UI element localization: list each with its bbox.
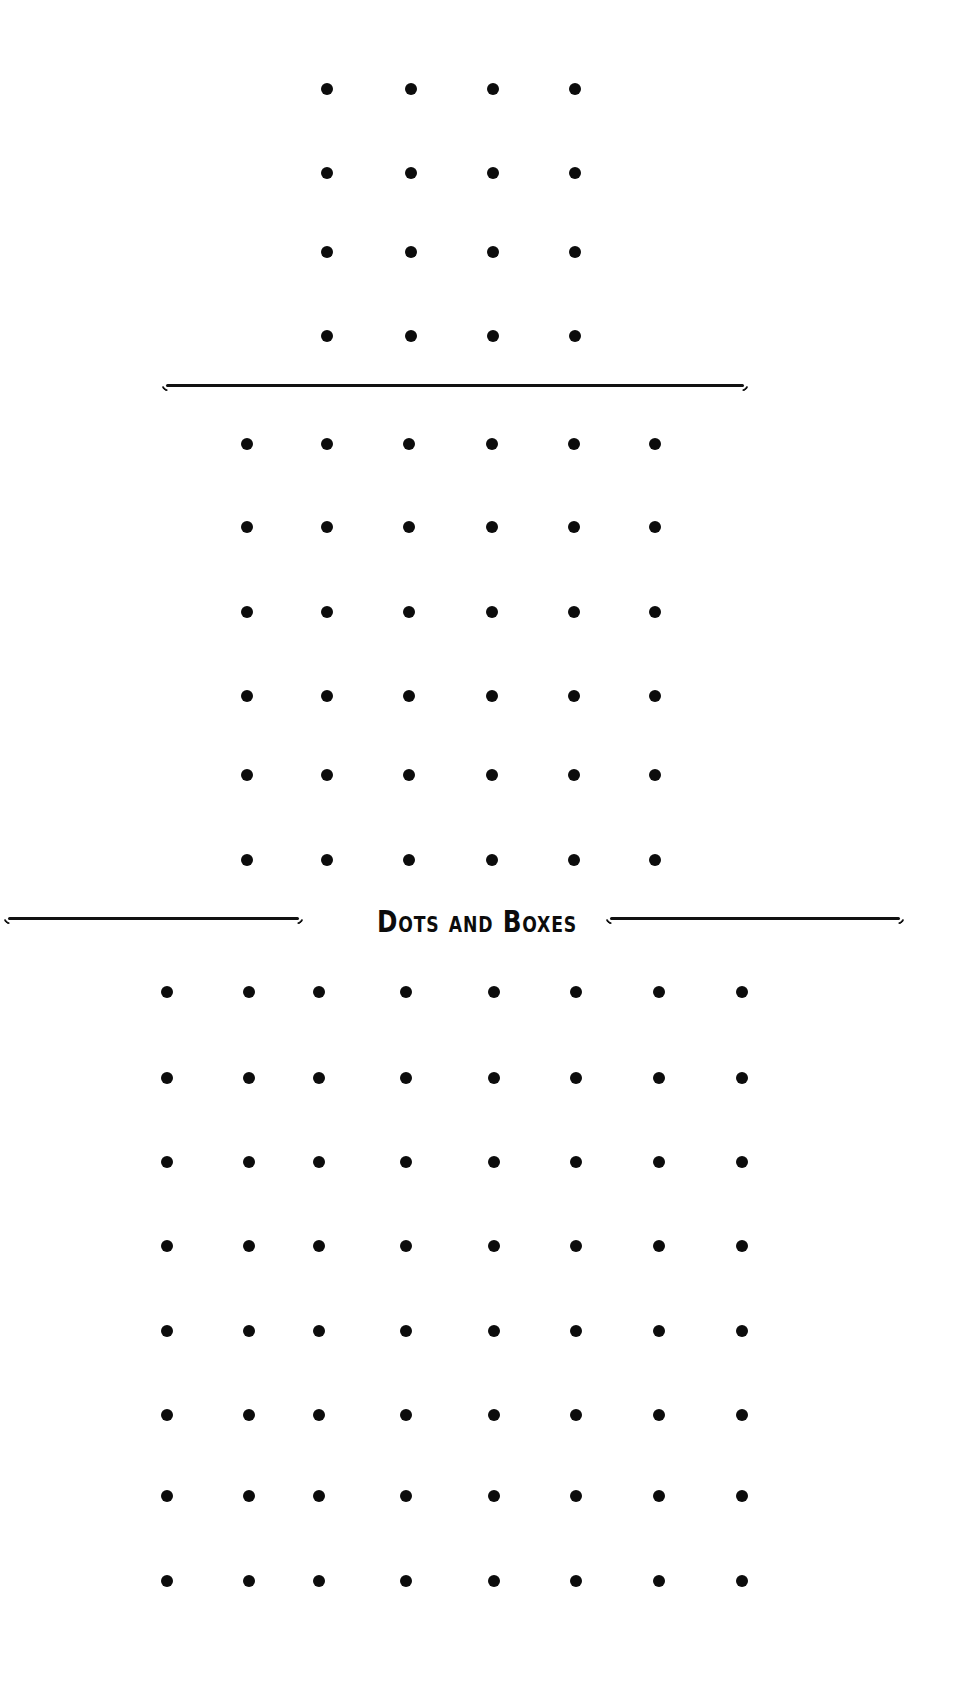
- grid-dot[interactable]: [736, 1072, 748, 1084]
- grid-dot[interactable]: [403, 606, 415, 618]
- grid-dot[interactable]: [403, 438, 415, 450]
- grid-dot[interactable]: [400, 1072, 412, 1084]
- grid-dot[interactable]: [487, 83, 499, 95]
- grid-dot[interactable]: [161, 1156, 173, 1168]
- grid-dot[interactable]: [405, 167, 417, 179]
- grid-dot[interactable]: [568, 690, 580, 702]
- grid-dot[interactable]: [243, 1072, 255, 1084]
- grid-dot[interactable]: [649, 854, 661, 866]
- grid-dot[interactable]: [736, 1240, 748, 1252]
- grid-dot[interactable]: [736, 1409, 748, 1421]
- grid-dot[interactable]: [487, 330, 499, 342]
- grid-dot[interactable]: [570, 986, 582, 998]
- grid-dot[interactable]: [486, 438, 498, 450]
- grid-dot[interactable]: [403, 690, 415, 702]
- grid-dot[interactable]: [488, 1156, 500, 1168]
- grid-dot[interactable]: [313, 1240, 325, 1252]
- grid-dot[interactable]: [736, 1575, 748, 1587]
- grid-dot[interactable]: [487, 246, 499, 258]
- grid-dot[interactable]: [653, 1072, 665, 1084]
- grid-dot[interactable]: [736, 1156, 748, 1168]
- grid-dot[interactable]: [243, 1240, 255, 1252]
- grid-dot[interactable]: [488, 1490, 500, 1502]
- grid-dot[interactable]: [570, 1575, 582, 1587]
- grid-dot[interactable]: [161, 1240, 173, 1252]
- grid-dot[interactable]: [488, 1575, 500, 1587]
- grid-dot[interactable]: [569, 246, 581, 258]
- grid-dot[interactable]: [405, 330, 417, 342]
- grid-dot[interactable]: [321, 854, 333, 866]
- grid-dot[interactable]: [488, 1409, 500, 1421]
- grid-dot[interactable]: [568, 521, 580, 533]
- grid-dot[interactable]: [569, 330, 581, 342]
- grid-dot[interactable]: [241, 521, 253, 533]
- grid-dot[interactable]: [161, 1490, 173, 1502]
- grid-dot[interactable]: [736, 1490, 748, 1502]
- grid-dot[interactable]: [569, 83, 581, 95]
- grid-dot[interactable]: [653, 1575, 665, 1587]
- grid-dot[interactable]: [403, 769, 415, 781]
- grid-dot[interactable]: [243, 1325, 255, 1337]
- grid-dot[interactable]: [313, 1325, 325, 1337]
- grid-dot[interactable]: [653, 1240, 665, 1252]
- grid-dot[interactable]: [400, 1240, 412, 1252]
- grid-dot[interactable]: [241, 438, 253, 450]
- grid-dot[interactable]: [405, 246, 417, 258]
- grid-dot[interactable]: [313, 1156, 325, 1168]
- grid-dot[interactable]: [243, 986, 255, 998]
- grid-dot[interactable]: [400, 1575, 412, 1587]
- grid-dot[interactable]: [570, 1409, 582, 1421]
- grid-dot[interactable]: [568, 854, 580, 866]
- grid-dot[interactable]: [321, 769, 333, 781]
- grid-dot[interactable]: [313, 986, 325, 998]
- grid-dot[interactable]: [488, 986, 500, 998]
- grid-dot[interactable]: [568, 438, 580, 450]
- grid-dot[interactable]: [488, 1072, 500, 1084]
- grid-dot[interactable]: [321, 330, 333, 342]
- grid-dot[interactable]: [241, 690, 253, 702]
- grid-dot[interactable]: [400, 1409, 412, 1421]
- grid-dot[interactable]: [321, 690, 333, 702]
- grid-dot[interactable]: [649, 606, 661, 618]
- grid-dot[interactable]: [400, 986, 412, 998]
- grid-dot[interactable]: [653, 1325, 665, 1337]
- grid-dot[interactable]: [649, 690, 661, 702]
- grid-dot[interactable]: [488, 1240, 500, 1252]
- grid-dot[interactable]: [569, 167, 581, 179]
- grid-dot[interactable]: [736, 986, 748, 998]
- grid-dot[interactable]: [400, 1325, 412, 1337]
- grid-dot[interactable]: [649, 438, 661, 450]
- grid-dot[interactable]: [400, 1156, 412, 1168]
- grid-dot[interactable]: [241, 854, 253, 866]
- grid-dot[interactable]: [243, 1490, 255, 1502]
- grid-dot[interactable]: [161, 1409, 173, 1421]
- grid-dot[interactable]: [653, 1156, 665, 1168]
- grid-dot[interactable]: [243, 1575, 255, 1587]
- grid-dot[interactable]: [243, 1156, 255, 1168]
- grid-dot[interactable]: [403, 854, 415, 866]
- grid-dot[interactable]: [486, 521, 498, 533]
- grid-dot[interactable]: [321, 521, 333, 533]
- grid-dot[interactable]: [653, 1409, 665, 1421]
- grid-dot[interactable]: [568, 606, 580, 618]
- grid-dot[interactable]: [161, 1072, 173, 1084]
- grid-dot[interactable]: [653, 986, 665, 998]
- grid-dot[interactable]: [400, 1490, 412, 1502]
- grid-dot[interactable]: [321, 438, 333, 450]
- grid-dot[interactable]: [161, 1575, 173, 1587]
- grid-dot[interactable]: [570, 1240, 582, 1252]
- grid-dot[interactable]: [313, 1409, 325, 1421]
- grid-dot[interactable]: [570, 1325, 582, 1337]
- grid-dot[interactable]: [161, 986, 173, 998]
- grid-dot[interactable]: [736, 1325, 748, 1337]
- grid-dot[interactable]: [403, 521, 415, 533]
- grid-dot[interactable]: [241, 606, 253, 618]
- grid-dot[interactable]: [653, 1490, 665, 1502]
- grid-dot[interactable]: [313, 1072, 325, 1084]
- grid-dot[interactable]: [243, 1409, 255, 1421]
- grid-dot[interactable]: [313, 1490, 325, 1502]
- grid-dot[interactable]: [241, 769, 253, 781]
- grid-dot[interactable]: [321, 606, 333, 618]
- grid-dot[interactable]: [486, 854, 498, 866]
- grid-dot[interactable]: [570, 1490, 582, 1502]
